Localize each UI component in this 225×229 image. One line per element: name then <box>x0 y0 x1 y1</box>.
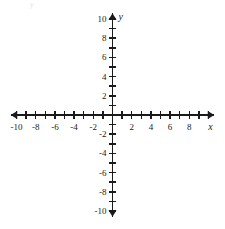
coordinate-plane-figure: y -10-8-6-4-22468 108642-2-4-6-8-10 x y <box>0 0 225 229</box>
y-tick-label: 2 <box>0 91 107 101</box>
y-tick-label: 8 <box>0 33 107 43</box>
y-tick-label: 4 <box>0 72 107 82</box>
y-tick-label: -2 <box>0 129 107 139</box>
x-tick-label: 8 <box>187 122 192 132</box>
y-tick-label: -8 <box>0 187 107 197</box>
y-tick-label: -10 <box>0 206 107 216</box>
x-tick-label: 4 <box>149 122 154 132</box>
y-axis-label: y <box>119 12 123 22</box>
x-axis-label: x <box>208 122 212 132</box>
x-tick-label: 6 <box>168 122 173 132</box>
x-tick-label: 2 <box>129 122 134 132</box>
y-tick-label: -4 <box>0 148 107 158</box>
y-tick-label: 10 <box>0 14 107 24</box>
y-tick-label: -6 <box>0 168 107 178</box>
y-tick-label: 6 <box>0 52 107 62</box>
